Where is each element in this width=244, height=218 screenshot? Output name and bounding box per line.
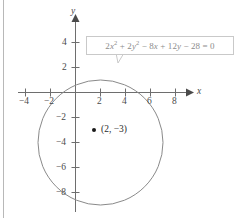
x-axis-label: x [197, 87, 201, 97]
x-tick-label-4: 4 [122, 97, 127, 107]
x-tick-label-2: 2 [97, 97, 102, 107]
x-tick-label-8: 8 [172, 97, 177, 107]
x-axis-arrowhead [186, 89, 194, 97]
plotted-point-marker [92, 128, 96, 132]
plot-canvas [0, 0, 244, 218]
y-tick-label-4: 4 [62, 38, 67, 48]
x-tick-label-6: 6 [147, 97, 152, 107]
plotted-point-label: (2, −3) [101, 125, 127, 135]
x-tick-label--4: −4 [19, 97, 29, 107]
y-tick-label--8: −8 [56, 188, 66, 198]
x-tick-label--2: −2 [44, 97, 54, 107]
y-tick-label--4: −4 [56, 138, 66, 148]
equation-op-3: + 12 [158, 41, 177, 51]
equation-callout-box: 2x2 + 2y2 − 8x + 12y − 28 = 0 [86, 36, 234, 55]
y-axis-label: y [71, 7, 75, 17]
equation-op-1: + [117, 41, 127, 51]
y-tick-label--2: −2 [56, 113, 66, 123]
circle-graph-figure: 2x2 + 2y2 − 8x + 12y − 28 = 0 −4 −2 2 4 … [0, 0, 244, 218]
equation-text: 2x2 + 2y2 − 8x + 12y − 28 = 0 [105, 41, 214, 51]
equation-op-4: − 28 = 0 [181, 41, 215, 51]
y-tick-label-2: 2 [62, 63, 67, 73]
y-tick-label--6: −6 [56, 163, 66, 173]
equation-op-2: − 8 [139, 41, 153, 51]
